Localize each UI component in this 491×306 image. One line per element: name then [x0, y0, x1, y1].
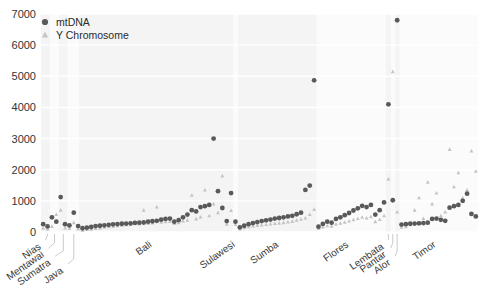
data-point	[347, 211, 352, 216]
leader-line-mentawai	[49, 234, 55, 248]
data-point	[58, 195, 63, 200]
leader-line-alor	[395, 234, 397, 256]
data-point	[220, 206, 225, 211]
data-point	[342, 213, 347, 218]
legend-label-mtdna: mtDNA	[56, 16, 90, 28]
data-point	[80, 226, 85, 231]
data-point	[128, 221, 133, 226]
scatter-chart: 01000200030004000500060007000 NiasMentaw…	[0, 0, 491, 306]
data-point	[334, 217, 339, 222]
data-point	[386, 102, 391, 107]
data-point	[316, 224, 321, 229]
data-point	[303, 188, 308, 193]
y-tick-label-1000: 1000	[12, 195, 36, 207]
legend-marker-mtdna	[42, 19, 48, 25]
data-point	[382, 200, 387, 205]
data-point	[76, 224, 81, 229]
data-point	[41, 222, 46, 227]
x-group-label-sulawesi: Sulawesi	[198, 239, 237, 271]
data-point	[207, 203, 212, 208]
data-point	[255, 220, 260, 225]
group-band-timor	[400, 14, 478, 232]
data-point	[268, 217, 273, 222]
data-point	[338, 215, 343, 220]
leader-line-pantar	[391, 234, 393, 248]
data-point	[320, 222, 325, 227]
data-point	[417, 221, 422, 226]
data-point	[45, 224, 50, 229]
data-point	[50, 215, 55, 220]
data-point	[456, 203, 461, 208]
data-point	[168, 216, 173, 221]
data-point	[360, 203, 365, 208]
leader-line-nias	[46, 234, 48, 240]
group-band-mentawai	[50, 14, 59, 232]
data-point	[408, 221, 413, 226]
data-point	[198, 205, 203, 210]
leader-line-sumatra	[55, 234, 63, 256]
data-point	[264, 218, 269, 223]
data-point	[421, 221, 426, 226]
data-point	[150, 219, 155, 224]
data-point	[102, 223, 107, 228]
data-point	[146, 219, 151, 224]
data-point	[281, 215, 286, 220]
y-axis-tick-labels: 01000200030004000500060007000	[12, 8, 36, 238]
y-tick-label-5000: 5000	[12, 70, 36, 82]
data-point	[124, 221, 129, 226]
data-point	[71, 210, 76, 215]
data-point	[277, 216, 282, 221]
y-tick-label-4000: 4000	[12, 101, 36, 113]
plot-background-bands	[41, 14, 478, 232]
group-band-flores	[317, 14, 386, 232]
data-point	[141, 220, 146, 225]
data-point	[373, 212, 378, 217]
y-tick-label-0: 0	[30, 226, 36, 238]
data-point	[364, 205, 369, 210]
data-point	[447, 205, 452, 210]
data-point	[185, 212, 190, 217]
data-point	[469, 212, 474, 217]
x-group-label-flores: Flores	[321, 239, 350, 264]
data-point	[369, 203, 374, 208]
data-point	[63, 222, 68, 227]
data-point	[473, 214, 478, 219]
data-point	[224, 219, 229, 224]
data-point	[438, 217, 443, 222]
leader-line-java	[68, 234, 74, 264]
data-point	[412, 221, 417, 226]
data-point	[425, 220, 430, 225]
group-band-sumba	[238, 14, 317, 232]
data-point	[106, 222, 111, 227]
data-point	[172, 219, 177, 224]
data-point	[399, 222, 404, 227]
data-point	[98, 223, 103, 228]
data-point	[294, 212, 299, 217]
group-band-sulawesi	[233, 14, 238, 232]
data-point	[111, 222, 116, 227]
data-point	[137, 220, 142, 225]
data-point	[377, 208, 382, 213]
data-point	[211, 136, 216, 141]
x-group-label-bali: Bali	[134, 239, 154, 258]
data-point	[189, 208, 194, 213]
data-point	[259, 219, 264, 224]
data-point	[93, 224, 98, 229]
group-band-nias	[41, 14, 50, 232]
data-point	[299, 210, 304, 215]
y-tick-label-3000: 3000	[12, 133, 36, 145]
data-point	[443, 218, 448, 223]
data-point	[307, 183, 312, 188]
data-point	[216, 189, 221, 194]
data-point	[312, 78, 317, 83]
data-point	[246, 222, 251, 227]
data-point	[133, 221, 138, 226]
data-point	[355, 206, 360, 211]
data-point	[290, 213, 295, 218]
data-point	[434, 216, 439, 221]
data-point	[202, 204, 207, 209]
data-point	[233, 219, 238, 224]
data-point	[286, 214, 291, 219]
x-group-label-sumba: Sumba	[248, 238, 281, 265]
group-band-java	[68, 14, 79, 232]
